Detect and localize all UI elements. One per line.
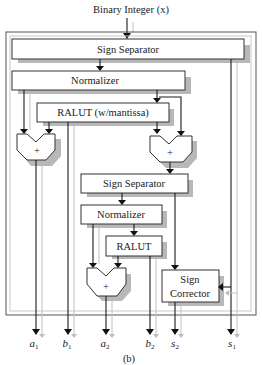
sign-separator-1-label: Sign Separator [97, 44, 160, 55]
sign-separator-2-label: Sign Separator [103, 178, 166, 189]
adder-1-label: + [34, 145, 40, 156]
output-arrow-icon [171, 329, 179, 335]
ralut-2-label: RALUT [117, 241, 153, 252]
output-label-s1: s1 [228, 337, 236, 351]
output-arrow-icon [146, 329, 154, 335]
output-label-b2: b2 [146, 337, 156, 351]
input-label: Binary Integer (x) [93, 4, 169, 16]
adder-2-label: + [167, 147, 173, 158]
output-arrow-icon [227, 329, 235, 335]
adder-3-label: + [103, 281, 109, 292]
normalizer-1-label: Normalizer [71, 75, 119, 86]
output-label-b1: b1 [63, 337, 73, 351]
output-label-a1: a1 [30, 337, 40, 351]
normalizer-2-label: Normalizer [97, 209, 145, 220]
output-arrow-icon [32, 329, 40, 335]
sign-corrector-label-1: Sign [180, 274, 200, 285]
output-label-a2: a2 [101, 337, 111, 351]
output-label-s2: s2 [171, 337, 179, 351]
output-arrow-icon [102, 329, 110, 335]
hardware-block-diagram: Binary Integer (x) Sign Separator Normal… [0, 0, 262, 365]
figure-caption: (b) [123, 353, 136, 365]
ralut-1-label: RALUT (w/mantissa) [57, 107, 149, 119]
output-arrow-icon [64, 329, 72, 335]
sign-corrector-label-2: Corrector [170, 288, 211, 299]
